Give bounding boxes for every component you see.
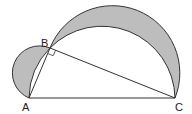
label-c: C <box>175 101 183 113</box>
diagram-canvas: B A C <box>0 0 192 114</box>
label-b: B <box>41 37 48 49</box>
lune-ab <box>12 46 50 98</box>
lune-bc <box>50 6 180 98</box>
triangle-abc <box>29 48 175 98</box>
label-a: A <box>22 101 30 113</box>
